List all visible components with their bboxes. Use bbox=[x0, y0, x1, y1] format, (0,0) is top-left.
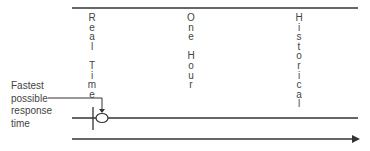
leader-arrowhead-icon bbox=[99, 109, 105, 113]
letter: e bbox=[185, 32, 197, 42]
response-point-circle bbox=[96, 114, 108, 123]
annotation-line: Fastest bbox=[11, 80, 52, 93]
annotation-line: time bbox=[11, 118, 52, 131]
arrowhead-icon bbox=[352, 135, 360, 143]
annotation-line: response bbox=[11, 105, 52, 118]
column-label-one-hour: O n e H o u r bbox=[185, 13, 197, 90]
letter: l bbox=[86, 42, 98, 52]
letter: l bbox=[293, 99, 305, 109]
column-label-real-time: R e a l T i m e bbox=[86, 13, 98, 99]
annotation-leader-line bbox=[48, 98, 102, 110]
fastest-response-annotation: Fastest possible response time bbox=[11, 80, 52, 130]
letter: r bbox=[185, 80, 197, 90]
letter: e bbox=[86, 90, 98, 100]
column-label-historical: H i s t o r i c a l bbox=[293, 13, 305, 109]
annotation-line: possible bbox=[11, 93, 52, 106]
